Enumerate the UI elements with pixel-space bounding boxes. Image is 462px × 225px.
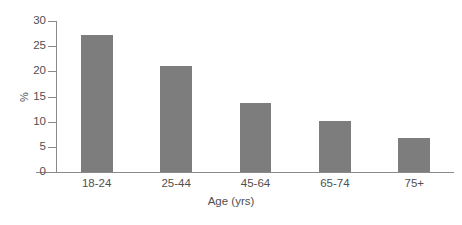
- bar: [398, 138, 430, 172]
- x-axis-tick-label: 75+: [374, 177, 454, 190]
- y-axis-tick: [48, 46, 56, 47]
- x-axis-tick-label: 65-74: [295, 177, 375, 190]
- y-axis-tick: [48, 172, 56, 173]
- y-axis-tick-label-text: 30: [4, 15, 46, 27]
- y-axis-tick-label-text: 25: [4, 40, 46, 52]
- y-axis-tick: [48, 147, 56, 148]
- y-axis-tick: [48, 97, 56, 98]
- x-axis-tick-label: 18-24: [57, 177, 137, 190]
- bar-column: [398, 21, 430, 172]
- x-axis-tick-label: 25-44: [136, 177, 216, 190]
- bar-chart: % 051015202530 18-2425-4445-6465-7475+ A…: [0, 0, 462, 225]
- bar-column: [160, 21, 192, 172]
- x-axis-title: Age (yrs): [0, 195, 462, 208]
- y-axis-tick-label: 0: [0, 166, 46, 178]
- y-axis-tick: [48, 71, 56, 72]
- bar: [319, 121, 351, 172]
- bar: [81, 35, 113, 172]
- y-axis-tick-label-text: 5: [4, 141, 46, 153]
- y-axis-tick-label-text: 15: [4, 91, 46, 103]
- x-axis-line: [36, 172, 454, 173]
- y-axis-tick-label: 30: [0, 15, 46, 27]
- bar-column: [319, 21, 351, 172]
- y-axis-tick-label: 15: [0, 91, 46, 103]
- bar-series: [57, 21, 454, 172]
- y-axis-tick-label-text: 20: [4, 65, 46, 77]
- bar: [160, 66, 192, 172]
- y-axis-tick: [48, 21, 56, 22]
- x-axis-tick-label: 45-64: [216, 177, 296, 190]
- y-axis-tick-label: 5: [0, 141, 46, 153]
- bar-column: [81, 21, 113, 172]
- bar-column: [240, 21, 272, 172]
- y-axis-tick-label: 10: [0, 116, 46, 128]
- y-axis-tick: [48, 122, 56, 123]
- y-axis-tick-label: 25: [0, 40, 46, 52]
- y-axis-tick-label-text: 10: [4, 116, 46, 128]
- y-axis-tick-label: 20: [0, 65, 46, 77]
- y-axis-tick-label-text: 0: [4, 166, 46, 178]
- bar: [240, 103, 272, 172]
